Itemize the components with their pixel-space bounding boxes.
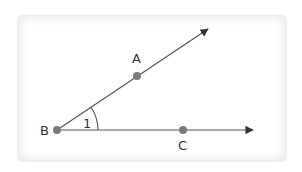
angle-label: 1 bbox=[83, 116, 91, 131]
label-b: B bbox=[40, 123, 49, 138]
point-c bbox=[179, 126, 187, 134]
angle-arc bbox=[91, 107, 98, 130]
label-a: A bbox=[132, 51, 141, 66]
point-a bbox=[133, 72, 141, 80]
angle-diagram: A B C 1 bbox=[0, 0, 302, 172]
point-b bbox=[53, 126, 61, 134]
ray-ba bbox=[57, 29, 208, 130]
label-c: C bbox=[178, 138, 187, 153]
